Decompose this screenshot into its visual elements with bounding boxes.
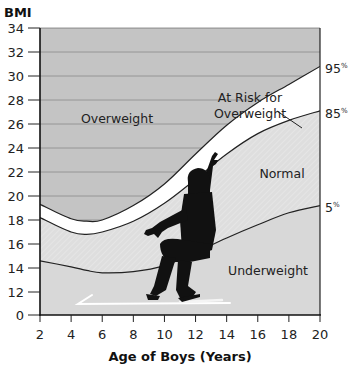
at-risk-label-line2: Overweight bbox=[214, 106, 286, 121]
x-tick-label: 2 bbox=[36, 327, 44, 342]
y-tick-label: 24 bbox=[7, 141, 24, 156]
overweight-label: Overweight bbox=[81, 111, 153, 126]
y-axis-title: BMI bbox=[4, 5, 32, 20]
x-tick-label: 6 bbox=[98, 327, 106, 342]
label-5th: 5% bbox=[325, 200, 340, 215]
normal-label: Normal bbox=[259, 166, 304, 181]
x-tick-label: 18 bbox=[281, 327, 298, 342]
x-tick-label: 16 bbox=[250, 327, 267, 342]
label-95th: 95% bbox=[325, 61, 348, 76]
y-tick-label: 16 bbox=[7, 237, 24, 252]
x-tick-label: 12 bbox=[187, 327, 204, 342]
y-tick-label: 34 bbox=[7, 21, 24, 36]
underweight-label: Underweight bbox=[228, 263, 308, 278]
y-tick-label: 30 bbox=[7, 69, 24, 84]
y-tick-label: 20 bbox=[7, 189, 24, 204]
y-tick-label: 22 bbox=[7, 165, 24, 180]
bmi-chart: 0121416182022242628303234 24681012141618… bbox=[0, 0, 350, 374]
y-tick-label: 32 bbox=[7, 45, 24, 60]
at-risk-label-line1: At Risk for bbox=[218, 90, 283, 105]
x-tick-label: 4 bbox=[67, 327, 75, 342]
x-axis-title: Age of Boys (Years) bbox=[108, 349, 251, 364]
x-tick-label: 20 bbox=[312, 327, 329, 342]
x-tick-label: 10 bbox=[156, 327, 173, 342]
label-85th: 85% bbox=[325, 106, 348, 121]
x-tick-label: 8 bbox=[129, 327, 137, 342]
y-tick-label: 28 bbox=[7, 93, 24, 108]
y-axis-ticks: 0121416182022242628303234 bbox=[7, 21, 40, 323]
y-tick-label: 18 bbox=[7, 213, 24, 228]
x-tick-label: 14 bbox=[218, 327, 235, 342]
y-tick-label: 12 bbox=[7, 285, 24, 300]
x-axis-ticks: 2468101214161820 bbox=[36, 315, 328, 342]
y-tick-label: 0 bbox=[16, 308, 24, 323]
y-tick-label: 14 bbox=[7, 261, 24, 276]
y-tick-label: 26 bbox=[7, 117, 24, 132]
